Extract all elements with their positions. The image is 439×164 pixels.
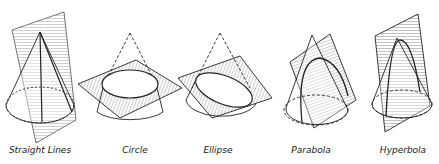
- label-hyperbola: Hyperbola: [380, 145, 426, 155]
- label-ellipse: Ellipse: [203, 145, 232, 155]
- straight-lines-figure: [6, 12, 76, 143]
- label-parabola: Parabola: [291, 145, 330, 155]
- label-straight-lines: Straight Lines: [9, 145, 71, 155]
- label-circle: Circle: [122, 145, 147, 155]
- hyperbola-figure: [372, 14, 432, 132]
- conic-sections-diagram: [0, 0, 439, 164]
- circle-figure: [78, 33, 182, 120]
- parabola-figure: [284, 34, 356, 128]
- ellipse-figure: [178, 33, 272, 118]
